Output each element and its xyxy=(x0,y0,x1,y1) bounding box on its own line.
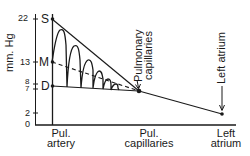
x-label-pul-capillaries-line2: capillaries xyxy=(119,138,179,148)
diastolic-label: D xyxy=(41,80,50,92)
tick-label-22: 22 xyxy=(18,14,28,23)
tick-label-0: 0 xyxy=(25,120,30,129)
capillary-to-atrium-line xyxy=(139,91,222,114)
mean-point xyxy=(51,60,55,64)
tick-label-7: 7 xyxy=(25,85,29,93)
tick-label-13: 13 xyxy=(20,58,30,67)
systolic-point xyxy=(51,17,55,21)
capillaries-annotation: Pulmonary capillaries xyxy=(133,29,153,82)
x-label-left-atrium-line2: atrium xyxy=(208,138,244,148)
x-label-left-atrium: Left atrium xyxy=(208,128,244,148)
left-atrium-point xyxy=(220,112,224,116)
atrium-annotation: Left atrium xyxy=(216,32,227,84)
diastolic-point xyxy=(51,84,55,88)
y-axis-label: mm. Hg xyxy=(4,34,15,73)
pressure-waveform xyxy=(52,30,119,90)
systolic-line xyxy=(52,19,139,91)
x-label-pul-artery-line2: artery xyxy=(44,138,78,148)
mean-label: M xyxy=(39,56,49,68)
systolic-label: S xyxy=(41,13,49,25)
tick-label-2: 2 xyxy=(25,109,30,118)
x-label-pul-capillaries: Pul. capillaries xyxy=(119,128,179,148)
capillaries-annotation-line2: capillaries xyxy=(143,29,153,82)
x-label-pul-artery: Pul. artery xyxy=(44,128,78,148)
capillaries-point xyxy=(137,89,142,94)
